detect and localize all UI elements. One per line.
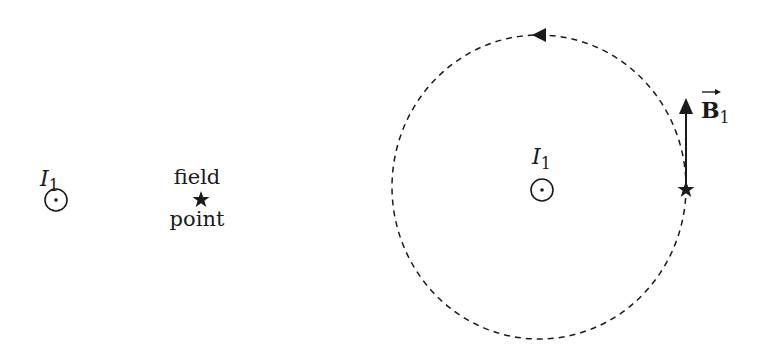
circulation-arrowhead-icon [532,28,546,42]
right-field-point-star-icon [678,181,695,197]
right-current-label: I1 [531,144,551,173]
right-panel: I1 B1 [392,28,730,339]
b-field-vector-arrowhead-icon [679,98,693,114]
left-panel: I1 field point [39,165,225,231]
field-point-label-bottom: point [170,207,225,231]
b1-vector-label: B1 [701,89,730,127]
field-point-label-top: field [174,165,221,189]
diagram-canvas: I1 field point I1 B1 [0,0,770,354]
svg-text:B1: B1 [701,97,730,127]
right-out-of-page-icon [531,179,553,201]
dashed-field-circle [392,35,686,339]
left-field-point-star-icon [193,191,210,207]
